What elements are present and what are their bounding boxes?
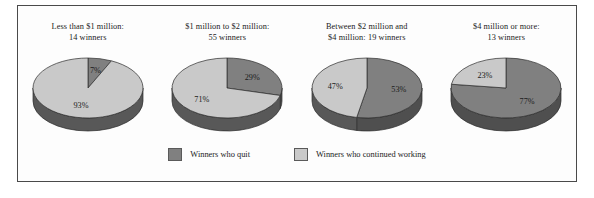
- pie-slice-label: 29%: [245, 73, 260, 82]
- pie-slice-label: 7%: [90, 66, 101, 75]
- pie-svg: 77%23%: [445, 48, 567, 134]
- pie-svg: 7%93%: [27, 48, 149, 134]
- legend-label-quit: Winners who quit: [190, 150, 250, 159]
- pie-slice-label: 71%: [195, 95, 210, 104]
- pie-chart-2m-to-4m: 53%47%: [306, 48, 428, 134]
- pie-slice-label: 77%: [520, 97, 535, 106]
- pie-slice-label: 93%: [73, 101, 88, 110]
- pie-chart-over-4m: 77%23%: [445, 48, 567, 134]
- pie-slice-label: 47%: [327, 82, 342, 91]
- legend-item-quit: Winners who quit: [168, 148, 250, 161]
- pie-panel-2m-to-4m: Between $2 million and $4 million: 19 wi…: [297, 6, 437, 146]
- panel-title: $1 million to $2 million: 55 winners: [164, 22, 292, 43]
- pie-svg: 53%47%: [306, 48, 428, 134]
- pie-panel-row: Less than $1 million: 14 winners 7%93% $…: [18, 6, 576, 146]
- legend-item-continued: Winners who continued working: [294, 148, 426, 161]
- pie-panel-1m-to-2m: $1 million to $2 million: 55 winners 29%…: [158, 6, 298, 146]
- chart-figure: Less than $1 million: 14 winners 7%93% $…: [17, 5, 577, 182]
- legend-swatch-quit: [168, 148, 182, 161]
- pie-chart-1m-to-2m: 29%71%: [166, 48, 288, 134]
- pie-svg: 29%71%: [166, 48, 288, 134]
- pie-panel-over-4m: $4 million or more: 13 winners 77%23%: [437, 6, 577, 146]
- panel-title: $4 million or more: 13 winners: [443, 22, 571, 43]
- legend-swatch-continued: [294, 148, 308, 161]
- panel-title: Less than $1 million: 14 winners: [24, 22, 152, 43]
- panel-title: Between $2 million and $4 million: 19 wi…: [303, 22, 431, 43]
- pie-panel-under-1m: Less than $1 million: 14 winners 7%93%: [18, 6, 158, 146]
- chart-legend: Winners who quit Winners who continued w…: [18, 148, 576, 161]
- pie-chart-under-1m: 7%93%: [27, 48, 149, 134]
- legend-label-continued: Winners who continued working: [316, 150, 426, 159]
- pie-slice-label: 23%: [478, 71, 493, 80]
- pie-slice-label: 53%: [391, 85, 406, 94]
